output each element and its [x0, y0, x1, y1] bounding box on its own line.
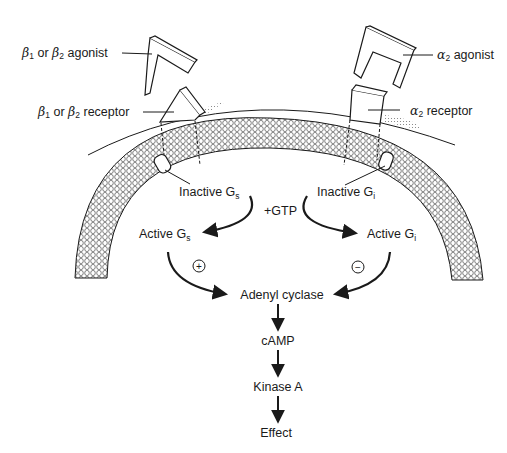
inactive-gs-pointer: [165, 170, 190, 184]
beta-agonist-pointer: [122, 53, 152, 54]
gi-to-cyclase-arrow: [336, 252, 390, 294]
inactive-gs-label: Inactive Gs: [179, 185, 240, 201]
beta-receptor-shape: [160, 87, 205, 122]
beta-agonist-label: β1 or β2 agonist: [21, 45, 108, 61]
gs-to-cyclase-arrow: [168, 252, 225, 294]
gs-activation-arrow: [205, 196, 252, 232]
signalling-diagram: β1 or β2 agonist β1 or β2 receptor α2 ag…: [0, 0, 507, 453]
stimulate-sign: +: [196, 261, 202, 272]
alpha-agonist-label: α2 agonist: [437, 47, 494, 63]
alpha-receptor-shape: [350, 85, 387, 124]
gi-activation-arrow: [303, 196, 355, 233]
inactive-gi-label: Inactive Gi: [317, 185, 375, 201]
beta-receptor-label: β1 or β2 receptor: [37, 104, 129, 120]
kinase-a-label: Kinase A: [253, 380, 303, 394]
alpha-agonist-shape: [354, 26, 416, 88]
gtp-label: +GTP: [264, 204, 297, 218]
lipid-bilayer-membrane: [75, 118, 483, 280]
alpha-receptor-label: α2 receptor: [410, 103, 473, 119]
active-gi-label: Active Gi: [367, 227, 416, 243]
adenyl-cyclase-label: Adenyl cyclase: [240, 288, 323, 302]
beta-agonist-shape: [145, 36, 197, 95]
camp-label: cAMP: [261, 334, 294, 348]
active-gs-label: Active Gs: [139, 227, 191, 243]
inactive-gi-pointer: [345, 166, 385, 185]
inhibit-sign: −: [355, 262, 361, 273]
effect-label: Effect: [260, 426, 292, 440]
